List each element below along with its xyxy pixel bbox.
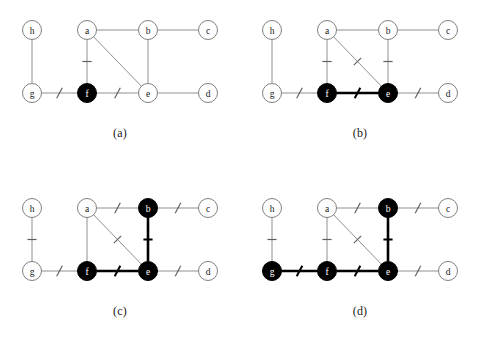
node-d-empty[interactable]: d [199, 262, 218, 281]
node-c-empty[interactable]: c [439, 21, 458, 40]
node-h-empty[interactable]: h [263, 21, 282, 40]
node-label-e: e [146, 267, 150, 277]
node-h-empty[interactable]: h [23, 21, 42, 40]
node-label-d: d [206, 89, 211, 99]
panel-c: habcgfed(c) [0, 178, 240, 356]
node-label-g: g [270, 89, 275, 99]
panel-caption-b: (b) [240, 126, 480, 141]
node-f-filled[interactable]: f [78, 262, 97, 281]
node-g-empty[interactable]: g [263, 84, 282, 103]
node-g-filled[interactable]: g [263, 262, 282, 281]
node-label-c: c [446, 204, 450, 214]
panel-b: habcgfed(b) [240, 0, 480, 178]
edge-layer [27, 203, 198, 277]
node-f-filled[interactable]: f [78, 84, 97, 103]
node-a-empty[interactable]: a [318, 199, 337, 218]
node-label-d: d [446, 267, 451, 277]
node-f-filled[interactable]: f [318, 84, 337, 103]
node-c-empty[interactable]: c [199, 199, 218, 218]
node-label-b: b [386, 26, 391, 36]
node-a-empty[interactable]: a [78, 21, 97, 40]
node-label-g: g [270, 267, 275, 277]
node-b-empty[interactable]: b [139, 21, 158, 40]
node-label-d: d [446, 89, 451, 99]
panel-caption-d: (d) [240, 304, 480, 319]
figure-matching-panels: habcgfed(a)habcgfed(b)habcgfed(c)habcgfe… [0, 0, 480, 356]
node-g-empty[interactable]: g [23, 84, 42, 103]
node-label-g: g [30, 89, 35, 99]
node-label-e: e [386, 267, 390, 277]
node-e-empty[interactable]: e [139, 84, 158, 103]
node-label-c: c [446, 26, 450, 36]
panel-caption-a: (a) [0, 126, 240, 141]
node-d-empty[interactable]: d [439, 84, 458, 103]
node-a-empty[interactable]: a [78, 199, 97, 218]
panel-a: habcgfed(a) [0, 0, 240, 178]
node-d-empty[interactable]: d [439, 262, 458, 281]
node-label-c: c [206, 26, 210, 36]
panel-caption-c: (c) [0, 304, 240, 319]
edge-a-e [94, 37, 142, 86]
node-h-empty[interactable]: h [23, 199, 42, 218]
node-c-empty[interactable]: c [199, 21, 218, 40]
node-b-empty[interactable]: b [379, 21, 398, 40]
node-c-empty[interactable]: c [439, 199, 458, 218]
node-d-empty[interactable]: d [199, 84, 218, 103]
graph-b: habcgfed [240, 0, 480, 178]
node-label-b: b [146, 26, 151, 36]
node-label-c: c [206, 204, 210, 214]
panel-d: habcgfed(d) [240, 178, 480, 356]
edge-layer [272, 30, 439, 98]
node-layer: habcgfed [23, 21, 218, 103]
node-label-h: h [30, 204, 35, 214]
graph-d: habcgfed [240, 178, 480, 356]
node-label-b: b [386, 204, 391, 214]
node-e-filled[interactable]: e [139, 262, 158, 281]
node-b-filled[interactable]: b [139, 199, 158, 218]
node-label-h: h [270, 26, 275, 36]
edge-layer [267, 203, 438, 277]
graph-c: habcgfed [0, 178, 240, 356]
node-a-empty[interactable]: a [318, 21, 337, 40]
node-label-h: h [30, 26, 35, 36]
node-f-filled[interactable]: f [318, 262, 337, 281]
edge-layer [32, 30, 199, 98]
node-label-g: g [30, 267, 35, 277]
node-label-e: e [386, 89, 390, 99]
node-e-filled[interactable]: e [379, 84, 398, 103]
node-e-filled[interactable]: e [379, 262, 398, 281]
node-label-d: d [206, 267, 211, 277]
node-g-empty[interactable]: g [23, 262, 42, 281]
node-label-h: h [270, 204, 275, 214]
node-b-filled[interactable]: b [379, 199, 398, 218]
node-h-empty[interactable]: h [263, 199, 282, 218]
graph-a: habcgfed [0, 0, 240, 178]
node-label-e: e [146, 89, 150, 99]
node-label-b: b [146, 204, 151, 214]
